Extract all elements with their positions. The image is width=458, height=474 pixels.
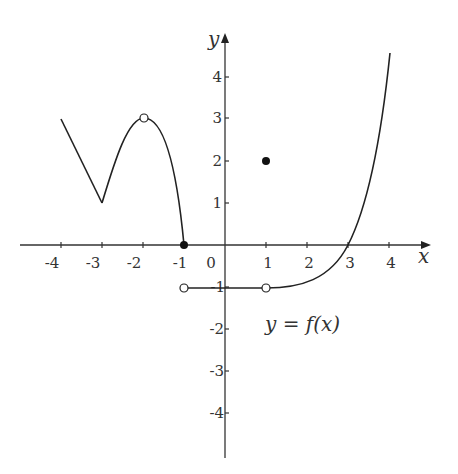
function-graph: -4 -3 -2 -1 0 1 2 3 4 4 3 2 1 -1 -2 -3 -… (0, 0, 458, 474)
y-tick-label: 1 (212, 194, 222, 212)
closed-point (262, 157, 270, 165)
curve-hump (102, 118, 184, 245)
y-tick-label: -3 (209, 362, 224, 380)
x-tick-label: -4 (45, 254, 60, 272)
y-tick-label: 4 (212, 68, 222, 86)
open-point (140, 114, 148, 122)
graph-points (140, 114, 270, 292)
x-tick-label: 1 (263, 254, 273, 272)
y-axis-arrow-icon (221, 33, 229, 43)
open-point (262, 284, 270, 292)
y-tick-label: -2 (209, 320, 224, 338)
y-tick-label: -4 (209, 404, 224, 422)
closed-point (180, 241, 188, 249)
y-tick-label: -1 (210, 278, 225, 296)
y-tick-label: 3 (212, 109, 222, 127)
segment-left (61, 119, 102, 203)
x-tick-label: -3 (86, 254, 101, 272)
x-tick-label: 2 (304, 254, 314, 272)
x-tick-label: -2 (127, 254, 142, 272)
x-tick-label: 4 (386, 254, 396, 272)
y-axis-label: y (207, 27, 220, 51)
x-tick-label: -1 (173, 254, 188, 272)
x-tick-label: 3 (345, 254, 355, 272)
axes (20, 33, 431, 458)
x-axis-label: x (418, 244, 429, 268)
y-tick-label: 2 (212, 152, 222, 170)
origin-label: 0 (206, 254, 216, 272)
curve-right (266, 53, 390, 288)
open-point (180, 284, 188, 292)
function-label: y = f(x) (264, 312, 340, 336)
x-tick-labels: -4 -3 -2 -1 0 1 2 3 4 (45, 254, 396, 272)
